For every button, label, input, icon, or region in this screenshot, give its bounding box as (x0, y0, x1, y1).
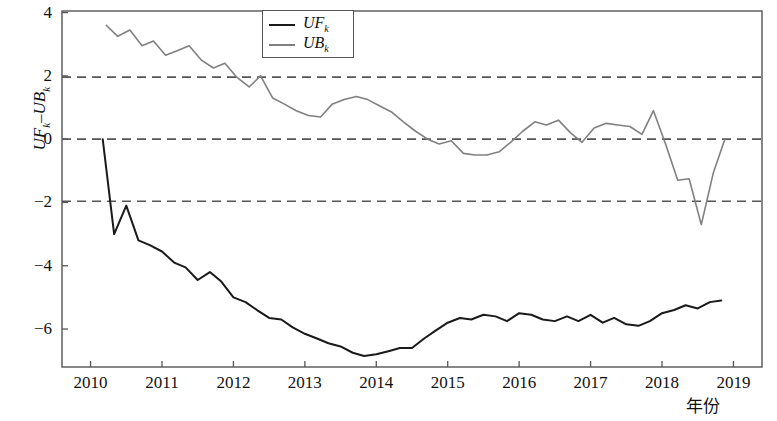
legend-item: UBk (269, 35, 347, 55)
x-tick-label: 2011 (145, 373, 178, 393)
series-line-UB-k (106, 25, 725, 224)
y-tick-label: −2 (8, 192, 52, 212)
y-axis-label: UFk–UBk (30, 44, 51, 194)
legend-swatch (269, 44, 295, 46)
axis-ticks (62, 13, 733, 367)
legend-item: UFk (269, 15, 347, 35)
y-tick-label: 4 (8, 3, 52, 23)
x-tick-label: 2016 (502, 373, 536, 393)
y-axis-label-dash: – (30, 114, 49, 123)
chart-legend: UFkUBk (262, 10, 354, 58)
legend-label: UFk (303, 15, 329, 34)
legend-label: UBk (303, 35, 329, 54)
x-tick-label: 2013 (288, 373, 322, 393)
x-tick-label: 2012 (216, 373, 250, 393)
y-axis-label-a-main: UF (30, 128, 49, 151)
legend-swatch (269, 24, 295, 26)
x-axis-label: 年份 (686, 392, 720, 417)
chart-figure: 420−2−4−6 201020112012201320142015201620… (0, 0, 777, 421)
series-line-UF-k (103, 139, 722, 356)
x-tick-label: 2015 (431, 373, 465, 393)
reference-lines (62, 77, 762, 201)
y-axis-label-a-sub: k (40, 123, 52, 128)
chart-plot-area (0, 0, 777, 421)
x-tick-label: 2017 (574, 373, 608, 393)
y-tick-label: −6 (8, 319, 52, 339)
axis-frame (62, 11, 762, 367)
x-tick-label: 2018 (645, 373, 679, 393)
y-tick-label: −4 (8, 256, 52, 276)
y-axis-label-b-main: UB (30, 92, 49, 115)
data-series (103, 25, 725, 356)
y-axis-label-b-sub: k (40, 87, 52, 92)
x-tick-label: 2019 (716, 373, 750, 393)
x-tick-label: 2010 (74, 373, 108, 393)
x-tick-label: 2014 (359, 373, 393, 393)
